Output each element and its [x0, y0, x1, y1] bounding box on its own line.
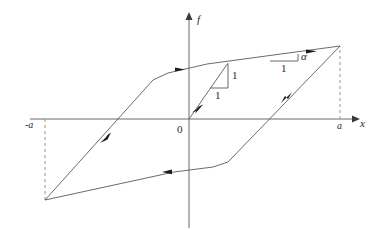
origin-label: 0 [177, 124, 183, 135]
f-axis-label: f [197, 14, 200, 25]
center-triangle-run-label: 1 [215, 90, 221, 101]
x-axis-arrow-icon [352, 116, 360, 123]
alpha-angle-label: α [301, 51, 307, 62]
x-tick-label-neg-a: -a [25, 120, 33, 130]
center-triangle-rise-label: 1 [232, 70, 238, 81]
hysteresis-diagram-canvas [0, 0, 378, 230]
upper-branch-path [45, 46, 340, 200]
axes-group [30, 12, 360, 228]
alpha-triangle-run-label: 1 [281, 63, 287, 74]
initial-loading-line-group [189, 63, 228, 119]
hysteresis-figure: f x -a a 0 1 1 1 α [0, 0, 378, 230]
lower-branch-path [45, 46, 340, 200]
f-axis-arrow-icon [186, 12, 193, 20]
x-axis-label: x [360, 118, 365, 129]
upper-branch-arrow-icon-2 [175, 68, 185, 72]
x-tick-label-pos-a: a [337, 121, 342, 131]
lower-branch-group [45, 46, 340, 200]
dashed-guides-group [45, 46, 340, 200]
upper-branch-group [45, 46, 340, 200]
